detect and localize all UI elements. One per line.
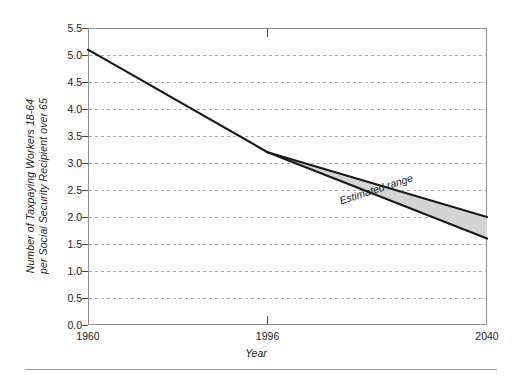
x-axis-tick-label: 2040 xyxy=(475,330,498,342)
y-axis-tick-label: 1.0 xyxy=(52,265,82,277)
y-axis-tick-label: 2.5 xyxy=(52,184,82,196)
chart-figure: Number of Taxpaying Workers 18-64 per So… xyxy=(0,0,522,384)
y-axis-tick-label: 1.5 xyxy=(52,238,82,250)
x-axis-title: Year xyxy=(0,347,522,359)
series-line-historical xyxy=(88,50,268,153)
x-axis-title-text: Year xyxy=(245,347,267,359)
y-axis-tick-label: 2.0 xyxy=(52,211,82,223)
series-line-estimate-lower xyxy=(268,152,487,238)
y-axis-tick-label: 5.5 xyxy=(52,22,82,34)
y-axis-tick-label: 3.0 xyxy=(52,157,82,169)
footer-rule xyxy=(25,369,497,370)
y-axis-tick-label: 3.5 xyxy=(52,130,82,142)
x-axis-tick-label: 1996 xyxy=(256,330,279,342)
y-axis-tick-label: 0.5 xyxy=(52,292,82,304)
y-axis-tick-label: 5.0 xyxy=(52,49,82,61)
x-axis-tick-label: 1960 xyxy=(76,330,99,342)
y-axis-tick-label: 4.0 xyxy=(52,103,82,115)
y-axis-tick-label: 4.5 xyxy=(52,76,82,88)
